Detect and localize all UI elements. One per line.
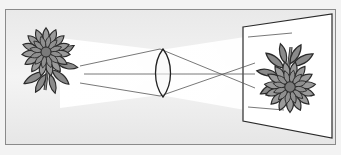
lens-diagram	[0, 0, 341, 155]
diagram-stage: Convex lens forming an inverted real ima…	[0, 0, 341, 155]
